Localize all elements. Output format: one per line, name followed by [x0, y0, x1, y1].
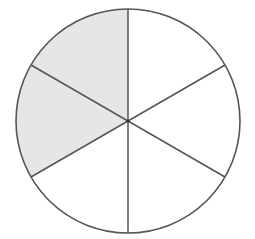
fraction-circle	[0, 0, 255, 239]
center-point	[126, 119, 129, 122]
